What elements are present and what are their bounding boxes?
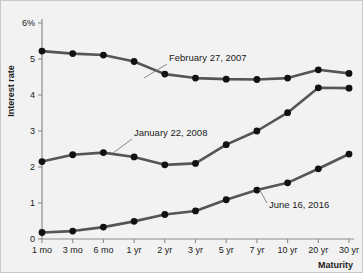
- y-tick-label: 0: [30, 234, 35, 244]
- data-point: [131, 58, 138, 65]
- x-tick-label: 10 yr: [278, 245, 298, 255]
- data-point: [315, 84, 322, 91]
- data-point: [223, 141, 230, 148]
- data-point: [69, 50, 76, 57]
- annotation-leader-line: [259, 189, 267, 203]
- data-point: [254, 128, 261, 135]
- x-tick-label: 1 mo: [32, 245, 52, 255]
- x-tick-label: 1 yr: [127, 245, 142, 255]
- chart-figure: 0123456% 1 mo3 mo6 mo1 yr2 yr3 yr5 yr7 y…: [0, 0, 363, 273]
- data-point: [346, 85, 353, 92]
- series-annotation-label: January 22, 2008: [134, 127, 207, 138]
- data-point: [161, 211, 168, 218]
- series-annotation-label: February 27, 2007: [169, 52, 247, 63]
- data-point: [254, 76, 261, 83]
- data-point: [100, 149, 107, 156]
- data-point: [131, 218, 138, 225]
- x-tick-label: 6 mo: [93, 245, 113, 255]
- annotation-leader-line: [113, 139, 132, 153]
- x-tick-label: 2 yr: [157, 245, 172, 255]
- data-point: [315, 165, 322, 172]
- data-point: [69, 228, 76, 235]
- data-point: [346, 70, 353, 77]
- data-point: [192, 160, 199, 167]
- x-tick-label: 7 yr: [249, 245, 264, 255]
- y-tick-label: 4: [30, 90, 35, 100]
- data-point: [284, 179, 291, 186]
- data-point: [284, 109, 291, 116]
- x-tick-label: 3 yr: [188, 245, 203, 255]
- data-point: [223, 196, 230, 203]
- y-tick-label: 6%: [22, 18, 35, 28]
- y-tick-label: 1: [30, 198, 35, 208]
- data-point: [100, 52, 107, 59]
- x-tick-label: 5 yr: [219, 245, 234, 255]
- data-point: [315, 66, 322, 73]
- y-axis-title: Interest rate: [6, 65, 16, 117]
- yield-curve-chart: 0123456% 1 mo3 mo6 mo1 yr2 yr3 yr5 yr7 y…: [1, 1, 363, 273]
- data-point: [39, 48, 46, 55]
- x-axis-title: Maturity: [318, 260, 353, 270]
- data-point: [192, 75, 199, 82]
- y-tick-label: 5: [30, 54, 35, 64]
- data-point: [161, 161, 168, 168]
- data-point: [69, 151, 76, 158]
- data-point: [100, 224, 107, 231]
- data-point: [39, 229, 46, 236]
- data-point: [161, 71, 168, 78]
- data-point: [284, 75, 291, 82]
- y-tick-label: 2: [30, 162, 35, 172]
- y-tick-label: 3: [30, 126, 35, 136]
- x-tick-label: 3 mo: [63, 245, 83, 255]
- data-point: [131, 154, 138, 161]
- x-tick-label: 30 yr: [339, 245, 359, 255]
- data-point: [192, 208, 199, 215]
- x-tick-label: 20 yr: [308, 245, 328, 255]
- data-point: [346, 151, 353, 158]
- data-point: [39, 158, 46, 165]
- data-point: [223, 76, 230, 83]
- series-annotation-label: June 16, 2016: [269, 199, 329, 210]
- x-axis: 1 mo3 mo6 mo1 yr2 yr3 yr5 yr7 yr10 yr20 …: [32, 239, 359, 255]
